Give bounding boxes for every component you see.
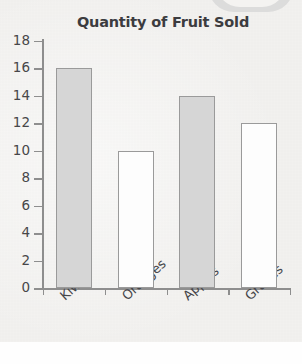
y-axis-tick-label: 18 — [0, 34, 30, 48]
x-axis-tick — [228, 288, 229, 295]
scanned-worksheet-page: Quantity of Fruit Sold 024681012141618 K… — [0, 0, 302, 364]
y-axis-tick — [34, 206, 42, 207]
y-axis-tick — [34, 96, 42, 97]
y-axis-tick-label: 14 — [0, 89, 30, 103]
chart-title: Quantity of Fruit Sold — [0, 14, 302, 30]
y-axis-tick-label: 2 — [0, 254, 30, 268]
x-axis-tick — [105, 288, 106, 295]
x-axis-tick — [43, 288, 44, 295]
y-axis-tick — [34, 288, 42, 289]
y-axis-tick-label: 16 — [0, 62, 30, 76]
y-axis-tick-label: 10 — [0, 144, 30, 158]
y-axis-tick-label: 12 — [0, 117, 30, 131]
x-axis-tick — [167, 288, 168, 295]
y-axis-tick-label: 0 — [0, 281, 30, 295]
y-axis-tick — [34, 178, 42, 179]
x-axis-tick — [290, 288, 291, 295]
y-axis-line — [42, 39, 44, 290]
bar-grapes — [241, 123, 277, 288]
y-axis-tick — [34, 233, 42, 234]
y-axis-tick — [34, 41, 42, 42]
y-axis-tick-label: 4 — [0, 226, 30, 240]
y-axis-tick-label: 8 — [0, 171, 30, 185]
page-bottom-edge — [0, 342, 302, 364]
bar-kiwis — [56, 68, 92, 288]
bar-apples — [179, 96, 215, 288]
y-axis-tick — [34, 261, 42, 262]
y-axis-tick-label: 6 — [0, 199, 30, 213]
y-axis-tick — [34, 151, 42, 152]
bar-chart: Quantity of Fruit Sold 024681012141618 K… — [0, 0, 302, 364]
y-axis-tick — [34, 68, 42, 69]
y-axis-tick — [34, 123, 42, 124]
bar-oranges — [118, 151, 154, 288]
